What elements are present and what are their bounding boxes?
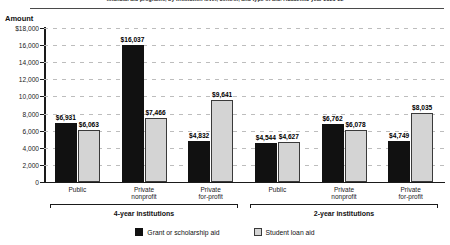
y-axis-tick — [40, 79, 44, 80]
bar-value-label: $4,832 — [189, 132, 209, 139]
legend-item[interactable]: Student loan aid — [254, 228, 315, 236]
y-axis-tick-label: $18,000 — [0, 25, 39, 32]
group-bracket — [250, 204, 438, 208]
legend-swatch-grant — [135, 228, 143, 236]
bar-grant-or-scholarship-aid[interactable] — [388, 141, 410, 182]
y-axis-tick-label: 2,000 — [0, 161, 39, 168]
legend-label: Grant or scholarship aid — [147, 229, 219, 236]
y-axis-tick-label: 16,000 — [0, 42, 39, 49]
bar-grant-or-scholarship-aid[interactable] — [322, 124, 344, 182]
y-axis-tick-label: 14,000 — [0, 59, 39, 66]
y-axis-tick — [40, 165, 44, 166]
bar-grant-or-scholarship-aid[interactable] — [122, 45, 144, 182]
gridline — [44, 79, 444, 80]
bar-grant-or-scholarship-aid[interactable] — [55, 123, 77, 182]
y-axis-tick — [40, 148, 44, 149]
bar-student-loan-aid[interactable] — [411, 113, 433, 182]
bar-value-label: $4,544 — [256, 134, 276, 141]
gridline — [44, 45, 444, 46]
y-axis-tick — [40, 28, 44, 29]
y-axis-title: Amount — [5, 14, 33, 23]
bar-value-label: $9,641 — [212, 91, 232, 98]
bar-student-loan-aid[interactable] — [78, 130, 100, 182]
category-label: Public — [68, 186, 86, 193]
gridline — [44, 62, 444, 63]
y-axis-tick-label: 4,000 — [0, 144, 39, 151]
y-axis-tick — [40, 62, 44, 63]
category-label: Private nonprofit — [131, 186, 156, 201]
gridline — [44, 28, 444, 29]
y-axis-tick — [40, 45, 44, 46]
y-axis-tick — [40, 182, 44, 183]
x-axis-line — [44, 182, 445, 183]
bar-student-loan-aid[interactable] — [211, 100, 233, 182]
bar-student-loan-aid[interactable] — [278, 142, 300, 182]
y-axis-tick-label: 6,000 — [0, 127, 39, 134]
chart-legend: Grant or scholarship aidStudent loan aid — [0, 228, 450, 236]
category-label: Private for-profit — [399, 186, 423, 201]
bar-grant-or-scholarship-aid[interactable] — [188, 141, 210, 182]
plot-area: $6,931$6,063$16,037$7,466$4,832$9,641$4,… — [44, 28, 444, 182]
y-axis-tick-label: 12,000 — [0, 76, 39, 83]
bar-grant-or-scholarship-aid[interactable] — [255, 143, 277, 182]
group-bracket-label: 2-year institutions — [314, 210, 374, 217]
legend-item[interactable]: Grant or scholarship aid — [135, 228, 219, 236]
gridline — [44, 131, 444, 132]
group-bracket — [50, 204, 238, 208]
bar-value-label: $7,466 — [145, 109, 165, 116]
bar-value-label: $6,063 — [79, 121, 99, 128]
bar-value-label: $4,749 — [389, 132, 409, 139]
title-divider — [30, 8, 444, 9]
chart-title: financial aid programs, by institution l… — [106, 0, 343, 2]
y-axis-tick-label: 8,000 — [0, 110, 39, 117]
legend-swatch-loan — [254, 228, 262, 236]
y-axis-tick — [40, 114, 44, 115]
gridline — [44, 148, 444, 149]
legend-label: Student loan aid — [266, 229, 315, 236]
bar-value-label: $16,037 — [121, 36, 145, 43]
category-label: Private for-profit — [199, 186, 223, 201]
category-label: Public — [268, 186, 286, 193]
y-axis-tick — [40, 96, 44, 97]
bar-value-label: $6,762 — [322, 115, 342, 122]
bar-value-label: $6,931 — [56, 114, 76, 121]
bar-student-loan-aid[interactable] — [345, 130, 367, 182]
y-axis-tick — [40, 131, 44, 132]
y-axis-tick-label: 0 — [0, 179, 39, 186]
group-bracket-label: 4-year institutions — [114, 210, 174, 217]
gridline — [44, 96, 444, 97]
gridline — [44, 165, 444, 166]
bar-value-label: $8,035 — [412, 104, 432, 111]
bar-student-loan-aid[interactable] — [145, 118, 167, 182]
gridline — [44, 114, 444, 115]
category-label: Private nonprofit — [331, 186, 356, 201]
bar-value-label: $4,627 — [279, 133, 299, 140]
y-axis-tick-label: 10,000 — [0, 93, 39, 100]
bar-value-label: $6,078 — [345, 121, 365, 128]
